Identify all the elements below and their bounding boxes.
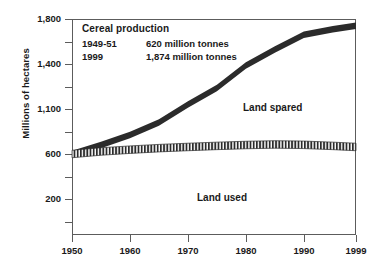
x-axis-tick xyxy=(130,235,131,242)
x-axis-tick-label: 1950 xyxy=(47,245,97,256)
annotation-cereal-production: Cereal production 1949-51 620 million to… xyxy=(82,22,237,63)
y-axis-tick-label: 200 xyxy=(15,193,61,204)
y-axis-tick xyxy=(65,87,72,88)
y-axis-tick xyxy=(65,64,72,65)
chart-figure: Millions of hectares 1,800 1,400 1,100 6… xyxy=(0,0,374,273)
y-axis-tick xyxy=(65,199,72,200)
x-axis-tick-label: 1970 xyxy=(163,245,213,256)
y-axis-tick xyxy=(65,222,72,223)
y-axis-tick xyxy=(65,177,72,178)
series-label-land-used: Land used xyxy=(197,192,247,203)
annotation-row: 1999 1,874 million tonnes xyxy=(82,50,237,63)
x-axis-tick xyxy=(304,235,305,242)
annotation-value: 620 million tonnes xyxy=(146,37,229,50)
x-axis-tick-label: 1980 xyxy=(221,245,271,256)
x-axis-tick-label: 1999 xyxy=(331,245,374,256)
y-axis-tick-label: 600 xyxy=(15,148,61,159)
x-axis-tick xyxy=(188,235,189,242)
x-axis-tick xyxy=(246,235,247,242)
y-axis-tick-label: 1,400 xyxy=(15,58,61,69)
y-axis-tick xyxy=(65,154,72,155)
y-axis-tick-label: 1,800 xyxy=(15,13,61,24)
annotation-period: 1949-51 xyxy=(82,37,146,50)
y-axis-tick xyxy=(65,19,72,20)
y-axis-tick-label: 1,100 xyxy=(15,103,61,114)
annotation-row: 1949-51 620 million tonnes xyxy=(82,37,237,50)
x-axis-tick xyxy=(72,235,73,242)
annotation-value: 1,874 million tonnes xyxy=(146,50,237,63)
series-label-land-spared: Land spared xyxy=(243,102,302,113)
x-axis-tick-label: 1960 xyxy=(105,245,155,256)
x-axis-tick xyxy=(356,235,357,242)
y-axis-tick xyxy=(65,42,72,43)
y-axis-tick xyxy=(65,109,72,110)
x-axis-tick-label: 1990 xyxy=(279,245,329,256)
y-axis-tick xyxy=(65,132,72,133)
annotation-title: Cereal production xyxy=(82,22,237,35)
annotation-period: 1999 xyxy=(82,50,146,63)
